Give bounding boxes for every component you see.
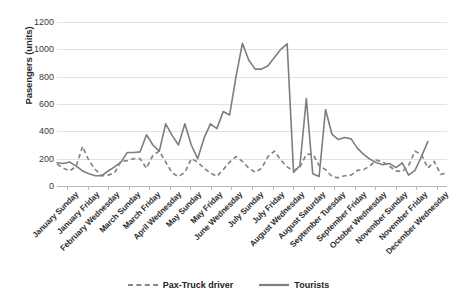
y-axis-tick-200: 200	[18, 154, 54, 164]
y-axis-tick-1200: 1200	[18, 17, 54, 27]
legend-swatch-solid	[259, 280, 289, 290]
line-chart: Pasengers (units) 120010008006004002000 …	[0, 0, 457, 307]
legend-label-tourists: Tourists	[294, 280, 329, 290]
y-axis-tick-600: 600	[18, 99, 54, 109]
series-line-pax-truck-driver	[57, 146, 447, 177]
y-axis-tick-0: 0	[18, 181, 54, 191]
series-layer	[57, 22, 447, 186]
y-axis-tick-400: 400	[18, 126, 54, 136]
x-axis-tick-labels: January SundayJanuary FridayFebruary Wed…	[57, 190, 447, 270]
legend-label-pax-truck-driver: Pax-Truck driver	[163, 280, 234, 290]
legend-swatch-dashed	[128, 280, 158, 290]
y-axis-tick-1000: 1000	[18, 44, 54, 54]
plot-area	[57, 22, 447, 186]
legend-item-pax-truck-driver[interactable]: Pax-Truck driver	[128, 280, 234, 290]
y-axis-tick-800: 800	[18, 72, 54, 82]
chart-legend: Pax-Truck driver Tourists	[0, 280, 457, 290]
y-axis-tick-labels: 120010008006004002000	[18, 15, 54, 186]
legend-item-tourists[interactable]: Tourists	[259, 280, 329, 290]
series-line-tourists	[57, 43, 428, 176]
